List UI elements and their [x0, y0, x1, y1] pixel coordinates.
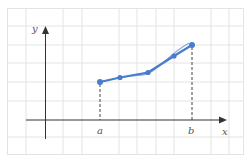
y-axis-label: y — [31, 23, 38, 34]
graph-canvas: y x a b — [0, 0, 248, 165]
axes — [26, 32, 222, 139]
bound-dashed-lines — [100, 47, 192, 120]
tick-label-a: a — [97, 125, 103, 136]
y-axis-arrow-icon — [42, 26, 49, 34]
tick-label-b: b — [188, 125, 194, 136]
point-3 — [171, 53, 176, 58]
grid — [7, 8, 244, 155]
point-2 — [145, 70, 150, 75]
x-axis-arrow-icon — [219, 117, 227, 124]
point-4 — [189, 42, 195, 48]
point-1 — [117, 75, 122, 80]
point-0 — [97, 79, 103, 85]
x-axis-label: x — [222, 126, 228, 137]
